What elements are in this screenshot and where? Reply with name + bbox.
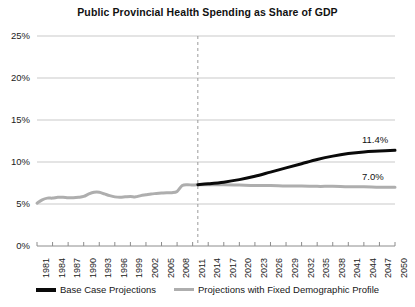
x-axis-tick-label: 2005 xyxy=(166,258,176,278)
y-axis-tick-label: 5% xyxy=(2,198,30,209)
chart-container: Public Provincial Health Spending as Sha… xyxy=(0,0,415,307)
x-axis-tick-label: 1993 xyxy=(103,258,113,278)
x-axis-tick-label: 2020 xyxy=(243,258,253,278)
x-axis-tick-label: 2038 xyxy=(337,258,347,278)
x-axis-tick-label: 1999 xyxy=(134,258,144,278)
x-axis-tick-label: 2047 xyxy=(383,258,393,278)
x-axis-tick-label: 1984 xyxy=(57,258,67,278)
legend-label-base-case: Base Case Projections xyxy=(60,284,156,295)
fixed-demographic-line xyxy=(198,185,395,188)
x-axis-tick-label: 2050 xyxy=(399,258,409,278)
legend-item-base-case[interactable]: Base Case Projections xyxy=(36,284,156,295)
y-axis-tick-label: 25% xyxy=(2,30,30,41)
chart-legend: Base Case Projections Projections with F… xyxy=(0,284,415,295)
x-axis-tick-label: 2029 xyxy=(290,258,300,278)
x-axis-tick-label: 2011 xyxy=(197,259,207,278)
x-axis-tick-label: 2032 xyxy=(306,258,316,278)
x-axis-tick-label: 1996 xyxy=(119,258,129,278)
legend-label-fixed-demographic: Projections with Fixed Demographic Profi… xyxy=(198,284,379,295)
legend-line-swatch-fixed-icon xyxy=(174,288,194,291)
x-axis-tick-label: 1987 xyxy=(72,258,82,278)
x-axis-tick-label: 2035 xyxy=(321,258,331,278)
x-axis-tick-label: 2017 xyxy=(228,258,238,278)
x-tick-marks-group xyxy=(37,242,395,246)
x-axis-tick-label: 2002 xyxy=(150,258,160,278)
x-axis-tick-label: 2044 xyxy=(368,258,378,278)
legend-item-fixed-demographic[interactable]: Projections with Fixed Demographic Profi… xyxy=(174,284,379,295)
x-axis-tick-label: 2023 xyxy=(259,258,269,278)
y-axis-tick-label: 0% xyxy=(2,240,30,251)
legend-line-swatch-base-icon xyxy=(36,288,56,292)
historical-line xyxy=(37,185,198,203)
series-end-value-label: 11.4% xyxy=(362,134,388,145)
x-axis-tick-label: 2014 xyxy=(212,258,222,278)
x-axis-tick-label: 1981 xyxy=(41,258,51,278)
y-axis-tick-label: 20% xyxy=(2,72,30,83)
x-axis-tick-label: 2008 xyxy=(181,258,191,278)
gridlines-group xyxy=(37,36,395,204)
x-axis-tick-label: 1990 xyxy=(88,258,98,278)
series-end-value-label: 7.0% xyxy=(362,171,384,182)
y-axis-tick-label: 15% xyxy=(2,114,30,125)
y-axis-tick-label: 10% xyxy=(2,156,30,167)
x-axis-tick-label: 2026 xyxy=(274,258,284,278)
x-axis-tick-label: 2041 xyxy=(352,258,362,278)
